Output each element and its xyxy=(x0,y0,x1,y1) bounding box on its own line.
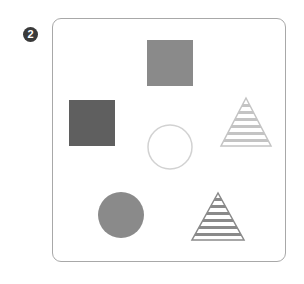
striped-triangle-bottom-shape xyxy=(190,193,246,240)
outline-circle-center-shape xyxy=(148,125,192,169)
solid-circle-bottom-shape xyxy=(98,192,144,238)
square-top-shape xyxy=(147,40,193,86)
striped-triangle-right-shape xyxy=(220,98,272,146)
square-left-shape xyxy=(69,100,115,146)
shapes-canvas xyxy=(0,0,304,284)
